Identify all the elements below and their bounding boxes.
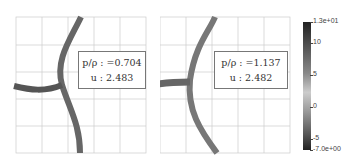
pressure-label-left: p/ρ : =0.704 bbox=[79, 55, 145, 70]
colorbar bbox=[303, 22, 311, 150]
colorbar-min: -7.0e+00 bbox=[313, 145, 341, 152]
annotation-right: p/ρ : =1.137 u : 2.482 bbox=[214, 51, 288, 89]
annotation-left: p/ρ : =0.704 u : 2.483 bbox=[78, 51, 146, 89]
colorbar-tick-5: 5 bbox=[313, 70, 317, 77]
velocity-label-right: u : 2.482 bbox=[215, 70, 287, 85]
colorbar-tick-0: 0 bbox=[313, 102, 317, 109]
colorbar-tick-10: 10 bbox=[313, 38, 321, 45]
pressure-label-right: p/ρ : =1.137 bbox=[215, 55, 287, 70]
vessel-right bbox=[190, 17, 217, 153]
colorbar-max: 1.3e+01 bbox=[313, 17, 339, 24]
velocity-label-left: u : 2.483 bbox=[79, 70, 145, 85]
colorbar-tick-neg5: -5 bbox=[313, 134, 319, 141]
